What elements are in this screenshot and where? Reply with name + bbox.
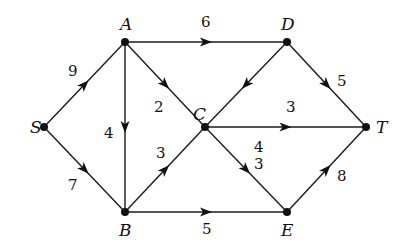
node-label: E xyxy=(280,220,294,240)
edge-weight: 9 xyxy=(68,62,78,80)
node-E: E xyxy=(280,208,294,240)
node-A: A xyxy=(118,14,132,46)
edge-A-D: 6 xyxy=(125,13,287,47)
edge-weight: 5 xyxy=(337,72,347,90)
edge-B-E: 5 xyxy=(125,208,287,239)
node-dot xyxy=(121,208,129,216)
node-S: S xyxy=(30,117,48,137)
node-label: A xyxy=(118,14,132,34)
node-B: B xyxy=(118,208,132,240)
edge-weight: 3 xyxy=(286,98,296,116)
edge-weight: 8 xyxy=(337,167,347,185)
node-dot xyxy=(283,38,291,46)
node-dot xyxy=(283,208,291,216)
edge-weight: 7 xyxy=(68,176,78,194)
edge-D-T: 5 xyxy=(287,42,366,127)
node-D: D xyxy=(280,14,295,46)
node-label: T xyxy=(376,117,389,137)
node-label: B xyxy=(118,220,132,240)
edge-weight: 5 xyxy=(202,220,212,238)
node-dot xyxy=(201,123,209,131)
node-label: D xyxy=(280,14,295,34)
edge-C-E: 3 xyxy=(205,127,287,212)
edge-weight: 3 xyxy=(254,155,264,173)
directed-graph: 976423545338 SABCDET xyxy=(0,0,403,252)
edge-weight: 6 xyxy=(201,13,211,31)
edge-weight: 4 xyxy=(104,124,114,142)
edge-weight: 3 xyxy=(156,144,166,162)
edge-S-A: 9 xyxy=(44,42,125,127)
node-label: S xyxy=(30,117,42,137)
node-label: C xyxy=(193,104,206,124)
node-dot xyxy=(121,38,129,46)
node-dot xyxy=(362,123,370,131)
edge-B-C: 3 xyxy=(125,127,205,212)
edge-C-T: 3 xyxy=(205,98,366,132)
edge-A-B: 4 xyxy=(104,42,130,212)
edge-E-T: 8 xyxy=(287,127,366,212)
node-T: T xyxy=(362,117,389,137)
edge-weight: 4 xyxy=(254,138,264,156)
node-C: C xyxy=(193,104,209,131)
edge-weight: 2 xyxy=(154,98,164,116)
